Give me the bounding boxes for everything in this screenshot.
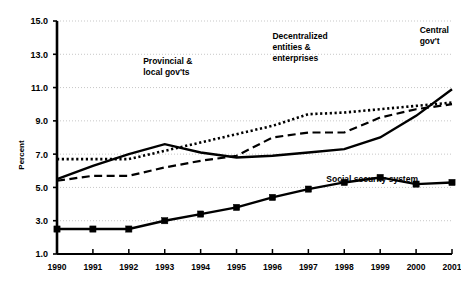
y-axis-tick-label: 11.0 xyxy=(31,83,48,93)
y-axis-tick-label: 5.0 xyxy=(35,183,48,193)
x-axis-tick-label: 1993 xyxy=(155,262,174,272)
series-line-3 xyxy=(57,177,452,229)
x-axis-tick-label: 1994 xyxy=(191,262,210,272)
x-axis-tick-label: 1995 xyxy=(227,262,246,272)
series-annotation-label: gov't xyxy=(420,36,440,46)
y-axis-title: Percent xyxy=(17,140,26,170)
series-marker xyxy=(198,211,204,217)
series-marker xyxy=(126,226,132,232)
x-axis-tick-label: 1998 xyxy=(335,262,354,272)
series-annotation-label: Decentralized xyxy=(272,31,327,41)
x-axis-tick-label: 1991 xyxy=(83,262,102,272)
series-marker xyxy=(449,179,455,185)
y-axis-tick-label: 1.0 xyxy=(35,249,48,259)
y-axis-tick-label: 15.0 xyxy=(30,16,48,26)
series-annotation-label: enterprises xyxy=(272,53,318,63)
x-axis-tick-label: 2001 xyxy=(443,262,461,272)
y-axis-tick-label: 13.0 xyxy=(30,50,48,60)
line-chart-plot: 1.03.05.07.09.011.013.015.01990199119921… xyxy=(0,0,461,289)
y-axis-tick-label: 3.0 xyxy=(35,216,48,226)
chart-container: 1.03.05.07.09.011.013.015.01990199119921… xyxy=(0,0,461,289)
x-axis-tick-label: 1990 xyxy=(48,262,67,272)
x-axis-tick-label: 1999 xyxy=(371,262,390,272)
series-marker xyxy=(269,194,275,200)
series-marker xyxy=(54,226,60,232)
series-annotation-label: entities & xyxy=(272,42,310,52)
y-axis-tick-label: 9.0 xyxy=(35,116,48,126)
x-axis-tick-label: 1996 xyxy=(263,262,282,272)
series-line-2 xyxy=(57,104,452,181)
x-axis-tick-label: 1997 xyxy=(299,262,318,272)
y-axis-tick-label: 7.0 xyxy=(35,150,48,160)
series-marker xyxy=(305,186,311,192)
series-marker xyxy=(90,226,96,232)
series-annotation-label: Social security system xyxy=(326,174,418,184)
x-axis-tick-label: 1992 xyxy=(119,262,138,272)
series-annotation-label: local gov'ts xyxy=(143,67,190,77)
series-marker xyxy=(162,218,168,224)
series-line-0 xyxy=(57,89,452,179)
x-axis-tick-label: 2000 xyxy=(407,262,426,272)
series-annotation-label: Central xyxy=(420,25,449,35)
series-annotation-label: Provincial & xyxy=(143,56,192,66)
series-marker xyxy=(233,204,239,210)
